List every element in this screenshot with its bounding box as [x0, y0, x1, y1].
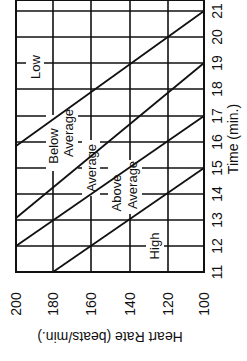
- svg-text:19: 19: [209, 55, 225, 71]
- svg-text:180: 180: [45, 292, 61, 316]
- svg-text:17: 17: [209, 108, 225, 124]
- svg-text:18: 18: [209, 81, 225, 97]
- svg-text:11: 11: [209, 265, 225, 280]
- time-tick-labels: 11 12 13 14 15 16 17 18 19 20 21: [209, 3, 225, 279]
- svg-text:140: 140: [122, 292, 138, 316]
- heart-rate-axis-label: Heart Rate (beats/min.): [37, 329, 183, 345]
- zone-label-low: Low: [26, 52, 44, 82]
- svg-text:120: 120: [160, 292, 176, 316]
- svg-text:Below: Below: [46, 128, 61, 164]
- boundary-low-below-average: [16, 11, 204, 146]
- zone-label-average: Average: [82, 140, 100, 196]
- svg-text:20: 20: [209, 29, 225, 45]
- svg-text:21: 21: [209, 3, 225, 19]
- heart-rate-chart: Low Below Average Average Above Average …: [0, 0, 247, 361]
- svg-text:High: High: [147, 233, 162, 260]
- svg-text:13: 13: [209, 212, 225, 228]
- zone-label-below-average: Below Average: [46, 109, 78, 171]
- time-axis-label: Time (min.): [225, 104, 241, 174]
- svg-text:160: 160: [83, 292, 99, 316]
- svg-text:16: 16: [209, 134, 225, 150]
- svg-text:14: 14: [209, 186, 225, 202]
- zone-label-high: High: [146, 230, 164, 262]
- svg-text:100: 100: [196, 292, 212, 316]
- boundary-average-above-average: [16, 116, 204, 246]
- svg-text:200: 200: [8, 292, 24, 316]
- svg-text:12: 12: [209, 238, 225, 254]
- svg-text:15: 15: [209, 160, 225, 176]
- heart-rate-tick-labels: 200 180 160 140 120 100: [8, 292, 212, 316]
- zone-label-above-average: Above Average: [108, 160, 142, 214]
- svg-text:Low: Low: [28, 54, 43, 78]
- svg-text:Average: Average: [61, 109, 76, 157]
